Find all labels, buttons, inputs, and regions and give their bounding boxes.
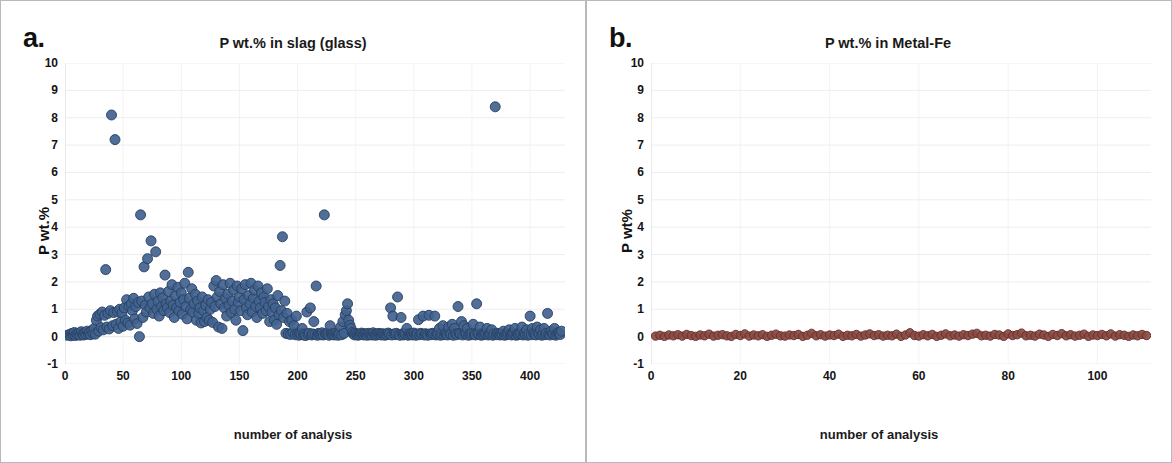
y-axis-tick-label: 6 bbox=[637, 165, 644, 179]
x-axis-tick-label: 0 bbox=[62, 369, 69, 383]
panel-b: b. P wt.% in Metal-Fe P wt% -10123456789… bbox=[586, 0, 1172, 463]
data-point bbox=[490, 102, 500, 112]
y-axis-tick-label: 1 bbox=[637, 302, 644, 316]
data-point bbox=[238, 326, 248, 336]
data-point bbox=[305, 303, 315, 313]
y-axis-tick-label: 8 bbox=[51, 111, 58, 125]
data-point bbox=[277, 232, 287, 242]
data-point bbox=[231, 315, 241, 325]
panel-a-inner: a. P wt.% in slag (glass) P wt.% -101234… bbox=[7, 7, 579, 454]
x-axis-tick-label: 60 bbox=[912, 369, 925, 383]
y-axis-tick-label: 0 bbox=[51, 330, 58, 344]
x-axis-tick-label: 350 bbox=[462, 369, 482, 383]
x-axis-tick-label: 100 bbox=[171, 369, 191, 383]
x-axis-tick-label: 300 bbox=[404, 369, 424, 383]
y-axis-tick-label: 0 bbox=[637, 330, 644, 344]
panel-a-y-axis-label: P wt.% bbox=[35, 206, 52, 254]
data-point bbox=[543, 308, 553, 318]
data-point bbox=[262, 284, 272, 294]
data-point bbox=[319, 210, 329, 220]
data-point bbox=[557, 326, 565, 336]
data-point bbox=[160, 270, 170, 280]
data-point bbox=[472, 299, 482, 309]
x-axis-tick-label: 150 bbox=[229, 369, 249, 383]
y-axis-tick-label: 7 bbox=[637, 138, 644, 152]
y-axis-tick-label: 3 bbox=[51, 248, 58, 262]
panel-b-y-axis-label: P wt% bbox=[618, 209, 635, 253]
data-point bbox=[1142, 331, 1150, 339]
y-axis-tick-label: 5 bbox=[51, 193, 58, 207]
x-axis-tick-label: 80 bbox=[1001, 369, 1014, 383]
y-axis-tick-label: -1 bbox=[633, 357, 644, 371]
data-points bbox=[65, 102, 565, 342]
y-axis-tick-label: 4 bbox=[51, 220, 58, 234]
x-axis-tick-label: 50 bbox=[116, 369, 129, 383]
panel-b-plot-wrap: -1012345678910020406080100 bbox=[651, 63, 1151, 398]
y-axis-tick-label: -1 bbox=[47, 357, 58, 371]
data-point bbox=[107, 110, 117, 120]
data-point bbox=[151, 247, 161, 257]
data-point bbox=[311, 281, 321, 291]
y-axis-tick-label: 4 bbox=[637, 220, 644, 234]
y-axis-tick-label: 1 bbox=[51, 302, 58, 316]
data-point bbox=[217, 323, 227, 333]
data-point bbox=[183, 267, 193, 277]
x-axis-tick-label: 200 bbox=[288, 369, 308, 383]
y-axis-tick-label: 8 bbox=[637, 111, 644, 125]
data-point bbox=[280, 296, 290, 306]
panel-b-x-axis-label: number of analysis bbox=[593, 427, 1165, 442]
y-axis-tick-label: 3 bbox=[637, 248, 644, 262]
y-axis-tick-label: 7 bbox=[51, 138, 58, 152]
x-axis-tick-label: 100 bbox=[1087, 369, 1107, 383]
panel-a-plot-wrap: -1012345678910050100150200250300350400 bbox=[65, 63, 565, 398]
data-point bbox=[343, 299, 353, 309]
data-point bbox=[143, 254, 153, 264]
panel-a-title: P wt.% in slag (glass) bbox=[7, 35, 579, 51]
x-axis-tick-label: 250 bbox=[346, 369, 366, 383]
panel-b-plot-area: -1012345678910020406080100 bbox=[651, 63, 1151, 364]
y-axis-tick-label: 2 bbox=[637, 275, 644, 289]
y-axis-tick-label: 5 bbox=[637, 193, 644, 207]
figure-root: a. P wt.% in slag (glass) P wt.% -101234… bbox=[0, 0, 1172, 463]
data-point bbox=[525, 311, 535, 321]
x-axis-tick-label: 40 bbox=[823, 369, 836, 383]
x-axis-tick-label: 400 bbox=[520, 369, 540, 383]
panel-b-inner: b. P wt.% in Metal-Fe P wt% -10123456789… bbox=[593, 7, 1165, 454]
data-point bbox=[291, 311, 301, 321]
panel-a-plot-area: -1012345678910050100150200250300350400 bbox=[65, 63, 565, 364]
data-point bbox=[146, 236, 156, 246]
panel-a-scatter-svg bbox=[65, 63, 565, 364]
panel-a: a. P wt.% in slag (glass) P wt.% -101234… bbox=[0, 0, 586, 463]
data-point bbox=[134, 332, 144, 342]
x-axis-tick-label: 20 bbox=[734, 369, 747, 383]
data-point bbox=[393, 292, 403, 302]
y-axis-tick-label: 10 bbox=[631, 56, 644, 70]
y-axis-tick-label: 9 bbox=[637, 83, 644, 97]
data-point bbox=[309, 317, 319, 327]
y-axis-tick-label: 10 bbox=[45, 56, 58, 70]
data-points bbox=[651, 329, 1150, 341]
panel-b-scatter-svg bbox=[651, 63, 1151, 364]
data-point bbox=[275, 260, 285, 270]
y-axis-tick-label: 6 bbox=[51, 165, 58, 179]
data-point bbox=[396, 312, 406, 322]
y-axis-tick-label: 9 bbox=[51, 83, 58, 97]
data-point bbox=[101, 265, 111, 275]
x-axis-tick-label: 0 bbox=[648, 369, 655, 383]
data-point bbox=[430, 311, 440, 321]
y-axis-tick-label: 2 bbox=[51, 275, 58, 289]
gridlines bbox=[651, 63, 1151, 364]
panel-b-title: P wt.% in Metal-Fe bbox=[593, 35, 1165, 51]
data-point bbox=[136, 210, 146, 220]
data-point bbox=[110, 135, 120, 145]
data-point bbox=[453, 302, 463, 312]
panel-a-x-axis-label: number of analysis bbox=[7, 427, 579, 442]
